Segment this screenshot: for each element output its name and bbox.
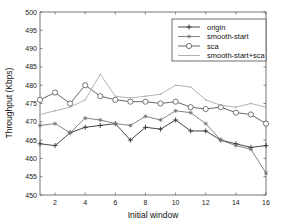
legend-label: smooth-start <box>207 32 250 41</box>
y-tick-label: 465 <box>25 137 37 144</box>
x-axis-label: Initial window <box>128 210 179 220</box>
line-chart: 450455460465470475480485490495500 246810… <box>0 0 286 224</box>
y-tick-label: 495 <box>25 27 37 34</box>
y-tick-label: 455 <box>25 173 37 180</box>
legend-label: smooth-start+sca <box>207 51 266 60</box>
legend: originsmooth-startscasmooth-start+sca <box>172 19 266 61</box>
y-tick-label: 485 <box>25 63 37 70</box>
x-tick-label: 8 <box>144 199 148 206</box>
x-tick-label: 10 <box>172 199 180 206</box>
y-tick-label: 460 <box>25 155 37 162</box>
legend-label: sca <box>207 42 220 51</box>
x-tick-label: 14 <box>232 199 240 206</box>
y-tick-label: 470 <box>25 118 37 125</box>
x-tick-label: 16 <box>262 199 270 206</box>
y-axis-label: Throughput (Kbps) <box>4 67 14 138</box>
x-tick-label: 12 <box>202 199 210 206</box>
x-tick-label: 2 <box>53 199 57 206</box>
y-tick-label: 480 <box>25 82 37 89</box>
x-tick-label: 4 <box>83 199 87 206</box>
legend-label: origin <box>207 23 225 32</box>
y-tick-label: 475 <box>25 100 37 107</box>
y-tick-label: 450 <box>25 192 37 199</box>
x-tick-label: 6 <box>113 199 117 206</box>
y-tick-label: 490 <box>25 45 37 52</box>
y-tick-label: 500 <box>25 9 37 16</box>
